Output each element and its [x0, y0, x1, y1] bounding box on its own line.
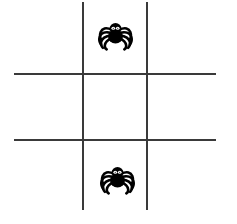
cell-bottom-left[interactable] [0, 139, 82, 224]
cell-top-left[interactable] [0, 0, 82, 73]
cell-middle-left[interactable] [0, 73, 82, 139]
cell-bottom-right[interactable] [146, 139, 237, 224]
spider-icon-bottom: spider [99, 157, 136, 195]
spider-icon-top: spider [97, 13, 134, 51]
cell-top-right[interactable] [146, 0, 237, 73]
cell-middle-right[interactable] [146, 73, 237, 139]
tic-tac-toe-canvas: spider spider [0, 0, 237, 224]
cell-middle-center[interactable] [82, 73, 146, 139]
